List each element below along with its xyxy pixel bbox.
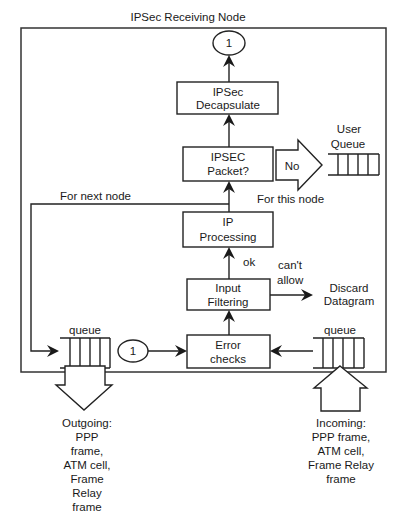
ipsec-diagram: IPSec Receiving Node 1 IPSec Decapsulate… xyxy=(0,0,408,525)
outgoing-queue xyxy=(60,338,110,368)
outgoing-arrow xyxy=(56,366,112,410)
user-label: User xyxy=(337,123,361,135)
svg-text:Frame: Frame xyxy=(70,473,103,485)
svg-text:frame: frame xyxy=(72,501,101,513)
svg-text:Error: Error xyxy=(215,339,241,351)
connector-top: 1 xyxy=(213,31,245,55)
svg-text:IP: IP xyxy=(223,216,234,228)
allow-label: allow xyxy=(277,274,304,286)
discard-label-line2: Datagram xyxy=(324,295,375,307)
ipsec-decapsulate-box: IPSec Decapsulate xyxy=(177,82,278,114)
for-this-node-label: For this node xyxy=(257,193,324,205)
svg-text:ATM cell,: ATM cell, xyxy=(63,459,110,471)
queue-left-label: queue xyxy=(69,324,101,336)
no-arrow: No xyxy=(276,140,322,190)
svg-text:Relay: Relay xyxy=(72,487,102,499)
incoming-label: Incoming: PPP frame, ATM cell, Frame Rel… xyxy=(308,417,374,485)
svg-text:Input: Input xyxy=(215,282,241,294)
svg-text:Frame Relay: Frame Relay xyxy=(308,459,374,471)
svg-text:Outgoing:: Outgoing: xyxy=(62,417,112,429)
svg-text:PPP: PPP xyxy=(75,431,98,443)
svg-text:checks: checks xyxy=(210,353,246,365)
user-queue-label: Queue xyxy=(331,138,366,150)
svg-text:IPSec: IPSec xyxy=(213,86,244,98)
input-filtering-box: Input Filtering xyxy=(187,279,270,310)
svg-text:IPSEC: IPSEC xyxy=(211,151,246,163)
svg-text:frame: frame xyxy=(326,473,355,485)
incoming-queue xyxy=(313,338,364,368)
ok-label: ok xyxy=(243,256,255,268)
svg-text:PPP frame,: PPP frame, xyxy=(312,431,371,443)
queue-right-label: queue xyxy=(324,324,356,336)
error-checks-box: Error checks xyxy=(187,335,270,368)
ip-processing-box: IP Processing xyxy=(183,212,273,247)
diagram-title: IPSec Receiving Node xyxy=(130,11,245,23)
user-queue xyxy=(328,154,379,175)
svg-text:1: 1 xyxy=(226,37,232,49)
svg-text:1: 1 xyxy=(130,345,136,357)
discard-label-line1: Discard xyxy=(330,282,369,294)
cant-label: can't xyxy=(278,259,303,271)
svg-text:Incoming:: Incoming: xyxy=(316,417,366,429)
svg-text:ATM cell,: ATM cell, xyxy=(317,445,364,457)
svg-text:Processing: Processing xyxy=(200,231,257,243)
connector-bottom: 1 xyxy=(118,340,148,362)
svg-text:Packet?: Packet? xyxy=(207,165,249,177)
svg-text:Decapsulate: Decapsulate xyxy=(196,99,260,111)
svg-text:Filtering: Filtering xyxy=(208,296,249,308)
outgoing-label: Outgoing: PPP frame, ATM cell, Frame Rel… xyxy=(62,417,112,513)
ipsec-packet-box: IPSEC Packet? xyxy=(183,147,273,181)
svg-text:frame,: frame, xyxy=(71,445,104,457)
for-next-node-label: For next node xyxy=(60,190,131,202)
svg-text:No: No xyxy=(285,160,300,172)
